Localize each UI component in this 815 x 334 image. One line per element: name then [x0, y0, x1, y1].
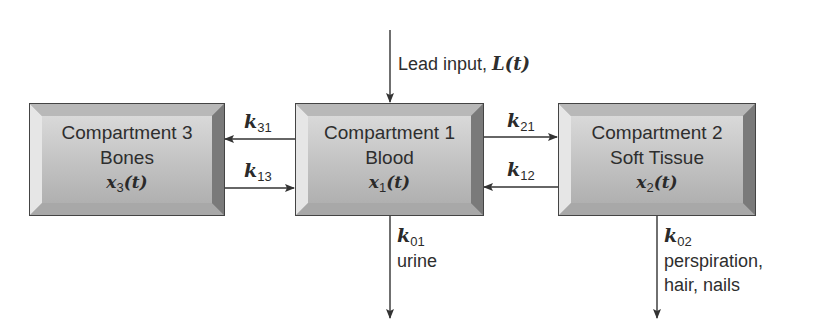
k02-label: k02 — [664, 224, 692, 249]
compartment-3-title: Compartment 3 — [62, 120, 193, 145]
k01-label: k01 — [397, 224, 425, 249]
compartment-2-box: Compartment 2 Soft Tissue x2(t) — [558, 103, 756, 216]
compartment-1-box: Compartment 1 Blood x1(t) — [295, 103, 484, 216]
compartment-2-title: Compartment 2 — [592, 120, 723, 145]
compartment-1-variable: x1(t) — [369, 170, 410, 200]
k21-label: k21 — [507, 109, 535, 134]
lead-input-text: Lead input, — [398, 54, 492, 74]
k02-description-line-1: perspiration, — [664, 251, 763, 272]
lead-input-math: L(t) — [492, 53, 530, 74]
compartment-3-name: Bones — [100, 145, 154, 170]
compartment-3-box: Compartment 3 Bones x3(t) — [29, 103, 225, 216]
compartment-2-variable: x2(t) — [636, 170, 677, 200]
k31-label: k31 — [244, 110, 272, 135]
compartment-3-variable: x3(t) — [106, 170, 147, 200]
compartment-1-title: Compartment 1 — [324, 120, 455, 145]
lead-input-label: Lead input, L(t) — [398, 53, 530, 75]
compartment-2-name: Soft Tissue — [610, 145, 704, 170]
compartment-1-name: Blood — [365, 145, 414, 170]
k01-description: urine — [397, 251, 437, 272]
k13-label: k13 — [244, 159, 272, 184]
k02-description-line-2: hair, nails — [664, 275, 740, 296]
k12-label: k12 — [507, 158, 535, 183]
